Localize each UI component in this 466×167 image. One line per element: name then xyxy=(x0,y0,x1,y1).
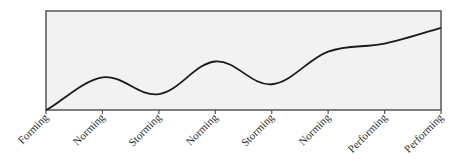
plot-area xyxy=(46,11,441,110)
line-chart: FormingNormingStormingNormingStormingNor… xyxy=(0,0,466,167)
x-tick-label: Performing xyxy=(401,111,445,155)
x-tick-label: Norming xyxy=(296,111,333,148)
x-tick-label: Performing xyxy=(345,111,389,155)
x-tick-label: Storming xyxy=(126,111,164,149)
x-tick-label: Norming xyxy=(183,111,220,148)
x-tick-label: Storming xyxy=(239,111,277,149)
x-axis-labels: FormingNormingStormingNormingStormingNor… xyxy=(15,111,446,155)
x-tick-label: Norming xyxy=(70,111,107,148)
x-tick-label: Forming xyxy=(15,111,51,147)
